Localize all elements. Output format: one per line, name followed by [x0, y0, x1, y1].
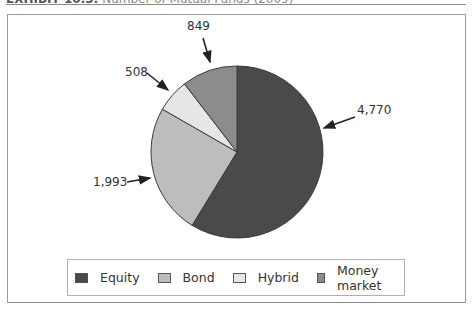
- swatch-equity: [75, 273, 88, 283]
- legend-label: Bond: [183, 270, 215, 285]
- legend-item-equity: Equity: [75, 270, 140, 285]
- arrow-bond: [127, 178, 150, 182]
- swatch-bond: [158, 273, 171, 283]
- label-hybrid: 508: [125, 65, 148, 79]
- legend-label: Equity: [100, 270, 140, 285]
- legend-item-bond: Bond: [158, 270, 215, 285]
- arrow-hybrid: [147, 73, 168, 90]
- chart-legend: Equity Bond Hybrid Money market: [67, 259, 405, 296]
- legend-item-hybrid: Hybrid: [233, 270, 299, 285]
- legend-label: Money market: [337, 263, 386, 293]
- arrow-money-market: [203, 38, 210, 62]
- label-bond: 1,993: [93, 175, 127, 189]
- pie-slices: [151, 66, 323, 238]
- label-equity: 4,770: [357, 103, 391, 117]
- swatch-money-market: [317, 273, 325, 283]
- label-money-market: 849: [187, 19, 210, 33]
- swatch-hybrid: [233, 273, 246, 283]
- arrow-equity: [324, 117, 355, 128]
- legend-item-money-market: Money market: [317, 263, 386, 293]
- legend-label: Hybrid: [258, 270, 299, 285]
